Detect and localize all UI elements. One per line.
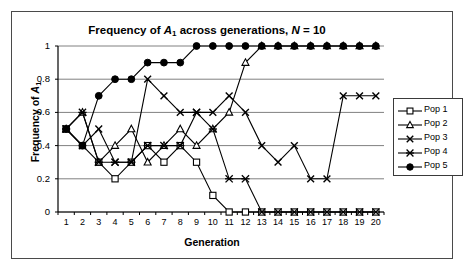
data-point-filled-circle <box>324 43 331 50</box>
series-pop-4 <box>62 109 380 216</box>
data-point-filled-circle <box>161 59 168 66</box>
chart-legend: Pop 1Pop 2Pop 3Pop 4Pop 5 <box>393 98 463 176</box>
data-point-filled-circle <box>291 43 298 50</box>
data-point-filled-circle <box>275 43 282 50</box>
plot-area <box>12 12 454 260</box>
data-point-filled-circle <box>193 43 200 50</box>
legend-marker-open-square-icon <box>397 103 423 115</box>
series-line <box>66 129 376 212</box>
legend-marker-open-triangle-icon <box>397 117 423 129</box>
data-point-filled-circle <box>95 92 102 99</box>
data-point-open-square <box>226 209 232 215</box>
data-point-filled-circle <box>209 43 216 50</box>
data-point-filled-circle <box>128 76 135 83</box>
data-point-filled-circle <box>79 142 86 149</box>
data-point-open-square <box>210 192 216 198</box>
series-pop-3 <box>63 76 380 182</box>
data-point-filled-circle <box>340 43 347 50</box>
legend-item-pop-2[interactable]: Pop 2 <box>397 116 460 130</box>
legend-label: Pop 3 <box>424 132 448 142</box>
legend-label: Pop 4 <box>424 146 448 156</box>
data-point-open-square <box>193 159 199 165</box>
data-point-filled-circle <box>407 164 413 170</box>
data-point-asterisk <box>406 150 414 157</box>
data-point-open-square <box>112 176 118 182</box>
data-point-cross-x <box>226 92 233 99</box>
data-point-filled-circle <box>242 43 249 50</box>
data-point-filled-circle <box>112 76 119 83</box>
data-point-filled-circle <box>258 43 265 50</box>
legend-label: Pop 5 <box>424 160 448 170</box>
data-point-filled-circle <box>356 43 363 50</box>
data-point-asterisk <box>241 175 249 182</box>
data-point-open-triangle <box>128 125 135 132</box>
data-point-filled-circle <box>144 59 151 66</box>
data-point-open-square <box>407 108 413 114</box>
series-pop-1 <box>63 126 379 215</box>
data-point-open-triangle <box>177 125 184 132</box>
data-point-cross-x <box>161 92 168 99</box>
legend-marker-filled-circle-icon <box>397 159 423 171</box>
data-point-filled-circle <box>226 43 233 50</box>
data-point-cross-x <box>275 159 282 166</box>
legend-label: Pop 1 <box>424 104 448 114</box>
legend-item-pop-4[interactable]: Pop 4 <box>397 144 460 158</box>
legend-marker-asterisk-icon <box>397 145 423 157</box>
data-point-asterisk <box>111 159 119 166</box>
legend-label: Pop 2 <box>424 118 448 128</box>
legend-item-pop-3[interactable]: Pop 3 <box>397 130 460 144</box>
data-point-open-square <box>161 159 167 165</box>
data-point-open-triangle <box>226 109 233 116</box>
data-point-filled-circle <box>307 43 314 50</box>
data-point-filled-circle <box>63 126 70 133</box>
data-point-asterisk <box>192 109 200 116</box>
series-pop-5 <box>63 43 380 149</box>
legend-item-pop-5[interactable]: Pop 5 <box>397 158 460 172</box>
data-point-filled-circle <box>177 59 184 66</box>
series-line <box>66 46 376 146</box>
data-point-asterisk <box>225 175 233 182</box>
chart-frame: Frequency of A1 across generations, N = … <box>11 11 453 259</box>
legend-marker-cross-x-icon <box>397 131 423 143</box>
legend-item-pop-1[interactable]: Pop 1 <box>397 102 460 116</box>
data-point-filled-circle <box>372 43 379 50</box>
data-point-open-square <box>242 209 248 215</box>
data-point-cross-x <box>95 126 102 133</box>
